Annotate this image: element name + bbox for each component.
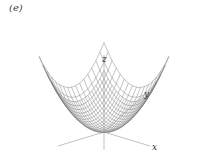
mesh-line	[68, 87, 133, 132]
mesh-line	[80, 87, 145, 132]
paraboloid-surface-plot: x y z	[0, 0, 203, 161]
z-axis-label: z	[101, 54, 107, 64]
axes	[58, 55, 150, 150]
x-axis-label: x	[152, 142, 157, 152]
mesh-line	[100, 64, 165, 109]
mesh-line	[43, 64, 108, 109]
y-axis-label: y	[143, 89, 150, 99]
x-axis-negative	[58, 132, 104, 146]
x-axis	[104, 132, 150, 146]
mesh-line	[76, 87, 141, 132]
mesh-line	[63, 87, 128, 132]
